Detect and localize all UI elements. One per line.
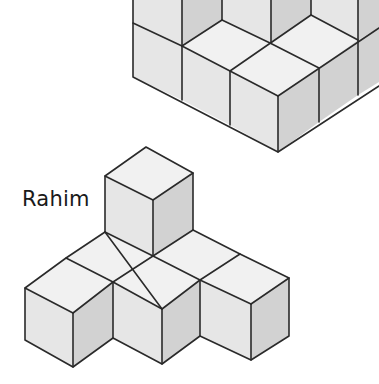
rahim-cube-structure: [25, 147, 289, 367]
figure-label-rahim: Rahim: [22, 187, 90, 211]
top-cube-structure: [133, 0, 379, 152]
diagram-canvas: Rahim: [0, 0, 379, 384]
